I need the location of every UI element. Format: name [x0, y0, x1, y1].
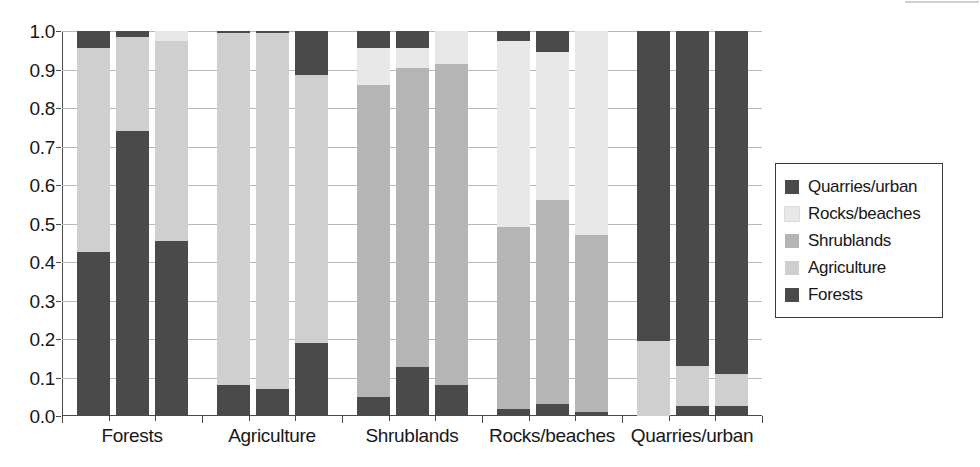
bar-segment: [256, 33, 289, 389]
x-axis-minor-tick-mark: [575, 416, 576, 421]
legend-swatch-icon: [785, 234, 799, 248]
bar-segment: [295, 343, 328, 416]
bar-segment: [536, 52, 569, 200]
bar-segment: [715, 406, 748, 416]
bar-segment: [116, 131, 149, 416]
y-axis-tick-label: 0.2: [9, 330, 55, 349]
bar-segment: [77, 252, 110, 416]
bar-segment: [77, 48, 110, 252]
legend-label: Shrublands: [808, 231, 891, 250]
bar-group: [357, 31, 468, 416]
chart-legend: Quarries/urbanRocks/beachesShrublandsAgr…: [775, 163, 943, 318]
stacked-bar[interactable]: [575, 31, 608, 416]
plot-area: [62, 31, 762, 416]
bar-segment: [256, 389, 289, 416]
stacked-bar[interactable]: [116, 31, 149, 416]
stacked-bar[interactable]: [396, 31, 429, 416]
stacked-bar[interactable]: [295, 31, 328, 416]
legend-item[interactable]: Agriculture: [785, 254, 934, 281]
legend-label: Quarries/urban: [808, 177, 917, 196]
legend-label: Forests: [808, 285, 863, 304]
legend-swatch-icon: [785, 288, 799, 302]
x-axis-tick-mark: [202, 416, 203, 423]
legend-item[interactable]: Forests: [785, 281, 934, 308]
y-axis-tick-mark: [56, 108, 61, 109]
y-axis-tick-mark: [56, 378, 61, 379]
bar-segment: [536, 404, 569, 416]
bar-segment: [497, 409, 530, 416]
y-axis-tick-mark: [56, 339, 61, 340]
stacked-bar[interactable]: [435, 31, 468, 416]
legend-swatch-icon: [785, 180, 799, 194]
x-axis-group-label: Agriculture: [202, 425, 342, 447]
bar-segment: [575, 31, 608, 235]
bar-segment: [497, 227, 530, 409]
legend-swatch-icon: [785, 207, 799, 221]
bar-segment: [637, 31, 670, 341]
bar-segment: [357, 397, 390, 416]
bar-group: [637, 31, 748, 416]
bar-segment: [357, 48, 390, 85]
stacked-bar[interactable]: [217, 31, 250, 416]
bar-segment: [396, 367, 429, 416]
legend-swatch-icon: [785, 261, 799, 275]
stacked-bar[interactable]: [256, 31, 289, 416]
x-axis-group-label: Quarries/urban: [622, 425, 762, 447]
bar-segment: [637, 341, 670, 416]
bar-segment: [357, 31, 390, 48]
stacked-bar[interactable]: [497, 31, 530, 416]
bar-segment: [676, 31, 709, 366]
bar-group: [77, 31, 188, 416]
bar-segment: [116, 37, 149, 131]
x-axis-minor-tick-mark: [249, 416, 250, 421]
bar-segment: [256, 31, 289, 33]
y-axis-tick-mark: [56, 416, 61, 417]
bar-segment: [155, 241, 188, 416]
bar-segment: [77, 31, 110, 48]
y-axis-tick-label: 0.3: [9, 292, 55, 311]
legend-item[interactable]: Rocks/beaches: [785, 200, 934, 227]
y-axis: 1.00.90.80.70.60.50.40.30.20.10.0: [0, 31, 55, 416]
bar-segment: [497, 41, 530, 228]
bar-group: [217, 31, 328, 416]
y-axis-tick-mark: [56, 147, 61, 148]
bar-segment: [357, 85, 390, 397]
bar-segment: [497, 31, 530, 41]
bar-segment: [715, 374, 748, 407]
y-axis-tick-label: 0.1: [9, 369, 55, 388]
y-axis-tick-label: 0.8: [9, 99, 55, 118]
stacked-bar[interactable]: [715, 31, 748, 416]
stacked-bar[interactable]: [536, 31, 569, 416]
x-axis-minor-tick-mark: [295, 416, 296, 421]
y-axis-tick-label: 0.7: [9, 138, 55, 157]
stacked-bar[interactable]: [155, 31, 188, 416]
x-axis-tick-mark: [62, 416, 63, 423]
y-axis-tick-mark: [56, 31, 61, 32]
x-axis-group-label: Shrublands: [342, 425, 482, 447]
x-axis-minor-tick-mark: [715, 416, 716, 421]
bar-segment: [295, 31, 328, 75]
y-axis-tick-label: 0.4: [9, 253, 55, 272]
bar-segment: [435, 31, 468, 64]
x-axis-tick-mark: [482, 416, 483, 423]
bar-segment: [676, 406, 709, 416]
stacked-bar[interactable]: [357, 31, 390, 416]
bar-segment: [435, 385, 468, 416]
bar-segment: [536, 200, 569, 404]
legend-item[interactable]: Shrublands: [785, 227, 934, 254]
stacked-bar[interactable]: [676, 31, 709, 416]
x-axis-minor-tick-mark: [435, 416, 436, 421]
stacked-bar[interactable]: [77, 31, 110, 416]
y-axis-tick-label: 0.0: [9, 407, 55, 426]
x-axis-minor-tick-mark: [109, 416, 110, 421]
bar-segment: [676, 366, 709, 406]
y-axis-tick-label: 0.5: [9, 215, 55, 234]
stacked-bar[interactable]: [637, 31, 670, 416]
y-axis-tick-mark: [56, 301, 61, 302]
y-axis-tick-mark: [56, 224, 61, 225]
bar-segment: [217, 31, 250, 33]
x-axis-group-label: Rocks/beaches: [482, 425, 622, 447]
legend-item[interactable]: Quarries/urban: [785, 173, 934, 200]
y-axis-tick-mark: [56, 70, 61, 71]
bar-segment: [155, 31, 188, 41]
